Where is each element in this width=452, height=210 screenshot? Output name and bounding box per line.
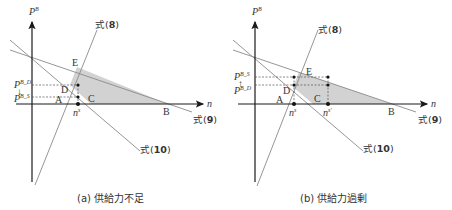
point-b: B <box>388 106 395 117</box>
dot <box>326 75 329 78</box>
eq9-label: 式(9) <box>193 114 217 125</box>
eq8-line <box>35 30 97 185</box>
point-e: E <box>306 66 312 77</box>
point-c: C <box>88 93 95 104</box>
point-b: B <box>163 106 170 117</box>
point-a: A <box>55 94 63 105</box>
eq8-line <box>257 30 318 186</box>
price-label-upper: PB_D <box>13 79 32 90</box>
dot <box>326 102 330 106</box>
eq10-label: 式(10) <box>140 144 171 155</box>
x-axis-label: n <box>431 98 436 109</box>
panel-a: PB n E D A C B PB_D ↓ PB_S ns 式(8) 式(9) … <box>10 6 217 185</box>
point-a: A <box>276 94 284 105</box>
point-d: D <box>283 85 290 96</box>
point-e: E <box>72 57 78 68</box>
dot <box>292 75 295 78</box>
n-label-s-prime: ns' <box>323 107 332 118</box>
diagram-canvas: PB n E D A C B PB_D ↓ PB_S ns 式(8) 式(9) … <box>0 0 452 210</box>
n-label-s: ns <box>289 107 297 118</box>
dot <box>326 83 329 86</box>
y-axis-label: PB <box>28 6 39 17</box>
eq8-label: 式(8) <box>318 24 342 35</box>
point-c: C <box>314 93 321 104</box>
x-axis-label: n <box>207 98 212 109</box>
eq9-label: 式(9) <box>418 114 442 125</box>
panel-b: PB n E D A C B PB_S ↑ PB_D ns ns' 式(8) 式… <box>233 6 442 186</box>
dot <box>76 83 79 86</box>
price-label-lower: PB_S <box>13 93 30 104</box>
dot <box>292 102 296 106</box>
dot <box>76 95 79 98</box>
eq8-label: 式(8) <box>95 19 119 30</box>
eq10-label: 式(10) <box>363 143 394 154</box>
caption-a: (a) 供給力不足 <box>77 190 144 205</box>
dot <box>292 83 295 86</box>
dot <box>76 102 80 106</box>
y-axis-label: PB <box>251 6 262 17</box>
price-label-lower: PB_D <box>233 85 252 96</box>
caption-b: (b) 供給力過剰 <box>300 190 367 205</box>
n-label-s: ns <box>73 107 81 118</box>
